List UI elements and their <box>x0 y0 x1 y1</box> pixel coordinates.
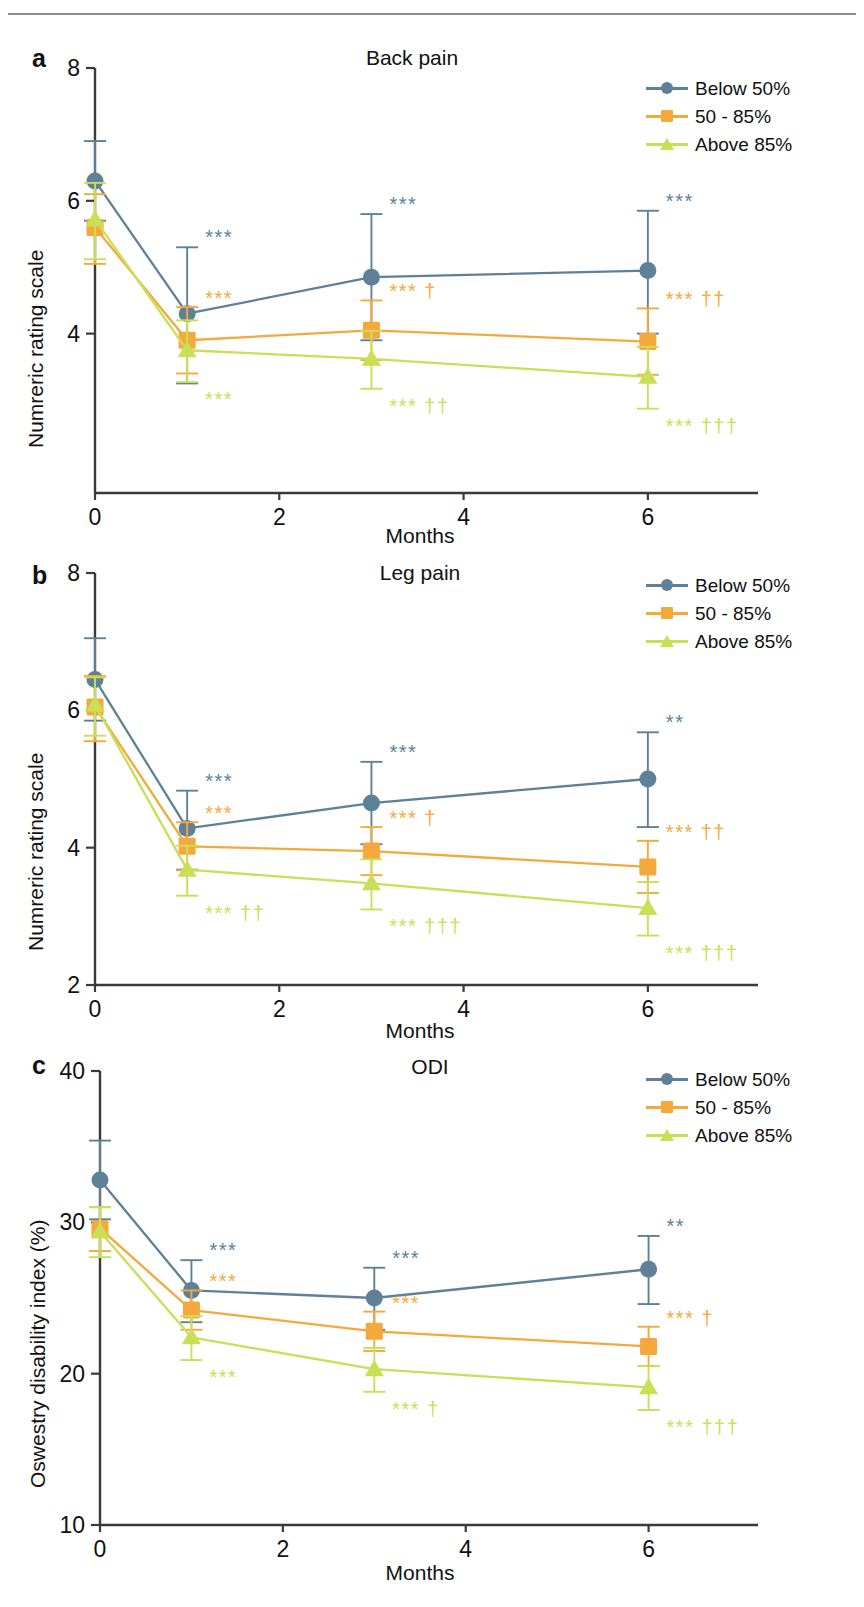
legend-label: Below 50% <box>695 576 790 595</box>
significance-annotation: *** †† <box>389 395 449 417</box>
data-point-circle <box>366 1290 383 1307</box>
legend-label: Above 85% <box>695 1126 792 1145</box>
significance-annotation: *** ††† <box>666 942 739 964</box>
x-tick-label: 2 <box>276 1536 289 1562</box>
panel-c: c ODI Oswestry disability index (%) Mont… <box>0 1043 864 1607</box>
significance-annotation: *** <box>205 287 233 309</box>
significance-annotation: *** † <box>667 1307 715 1329</box>
legend-label: Above 85% <box>695 135 792 154</box>
legend-label: Below 50% <box>695 1070 790 1089</box>
significance-annotation: *** <box>205 802 233 824</box>
x-tick-label: 4 <box>457 996 470 1022</box>
significance-annotation: *** <box>209 1270 237 1292</box>
legend-marker-square-icon <box>646 1098 688 1116</box>
panel-a: a Back pain Numreric rating scale Months… <box>0 38 864 558</box>
data-point-circle <box>640 1261 657 1278</box>
panel-a-legend: Below 50%50 - 85%Above 85% <box>646 74 792 158</box>
data-point-square <box>363 843 380 860</box>
x-tick-label: 0 <box>94 1536 107 1562</box>
x-tick-label: 0 <box>89 504 102 530</box>
legend-item-triangle: Above 85% <box>646 627 792 655</box>
y-tick-label: 6 <box>67 697 80 723</box>
y-tick-label: 10 <box>59 1512 85 1538</box>
x-tick-label: 2 <box>273 996 286 1022</box>
significance-annotation: *** ††† <box>667 1416 740 1438</box>
legend-marker-triangle-icon <box>646 1126 688 1144</box>
significance-annotation: *** †† <box>666 821 726 843</box>
legend-label: Above 85% <box>695 632 792 651</box>
x-tick-label: 6 <box>641 996 654 1022</box>
y-tick-label: 6 <box>67 188 80 214</box>
legend-item-square: 50 - 85% <box>646 599 792 627</box>
y-tick-label: 4 <box>67 835 80 861</box>
series-square: ********* † <box>89 1207 714 1366</box>
legend-label: 50 - 85% <box>695 1098 771 1117</box>
significance-annotation: *** <box>209 1239 237 1261</box>
legend-label: 50 - 85% <box>695 107 771 126</box>
figure-root: a Back pain Numreric rating scale Months… <box>0 0 864 1607</box>
significance-annotation: *** <box>205 388 233 410</box>
data-point-circle <box>363 269 380 286</box>
significance-annotation: *** <box>389 193 417 215</box>
significance-annotation: *** †† <box>666 288 726 310</box>
x-tick-label: 4 <box>459 1536 472 1562</box>
significance-annotation: ** <box>666 711 685 733</box>
significance-annotation: *** ††† <box>666 415 739 437</box>
series-circle: ******** <box>89 1141 685 1330</box>
legend-marker-triangle-icon <box>646 632 688 650</box>
series-square: ****** †*** †† <box>84 676 726 893</box>
header-divider <box>8 13 856 15</box>
data-point-circle <box>639 771 656 788</box>
significance-annotation: *** <box>209 1366 237 1388</box>
legend-marker-square-icon <box>646 107 688 125</box>
legend-item-square: 50 - 85% <box>646 1093 792 1121</box>
significance-annotation: *** <box>392 1247 420 1269</box>
legend-item-triangle: Above 85% <box>646 1121 792 1149</box>
significance-annotation: *** <box>205 770 233 792</box>
series-circle: ********* <box>84 141 694 383</box>
y-tick-label: 30 <box>59 1209 85 1235</box>
significance-annotation: *** † <box>389 807 437 829</box>
legend-marker-triangle-icon <box>646 135 688 153</box>
data-point-triangle <box>86 210 105 227</box>
legend-item-square: 50 - 85% <box>646 102 792 130</box>
legend-marker-circle-icon <box>646 79 688 97</box>
significance-annotation: *** † <box>389 280 437 302</box>
x-tick-label: 6 <box>642 1536 655 1562</box>
panel-b: b Leg pain Numreric rating scale Months … <box>0 553 864 1058</box>
legend-marker-square-icon <box>646 604 688 622</box>
legend-marker-circle-icon <box>646 1070 688 1088</box>
significance-annotation: ** <box>667 1215 686 1237</box>
y-tick-label: 8 <box>67 560 80 586</box>
data-point-circle <box>92 1171 109 1188</box>
series-square: ****** †*** †† <box>84 194 726 375</box>
x-tick-label: 4 <box>457 504 470 530</box>
legend-label: Below 50% <box>695 79 790 98</box>
significance-annotation: *** †† <box>205 902 265 924</box>
series-circle: ******** <box>84 638 684 869</box>
legend-label: 50 - 85% <box>695 604 771 623</box>
x-tick-label: 6 <box>641 504 654 530</box>
y-tick-label: 8 <box>67 55 80 81</box>
y-tick-label: 2 <box>67 972 80 998</box>
significance-annotation: *** <box>666 190 694 212</box>
panel-c-legend: Below 50%50 - 85%Above 85% <box>646 1065 792 1149</box>
significance-annotation: *** <box>392 1292 420 1314</box>
y-tick-label: 20 <box>59 1361 85 1387</box>
legend-item-triangle: Above 85% <box>646 130 792 158</box>
data-point-square <box>639 858 656 875</box>
legend-item-circle: Below 50% <box>646 74 792 102</box>
y-tick-label: 4 <box>67 321 80 347</box>
data-point-circle <box>363 795 380 812</box>
legend-item-circle: Below 50% <box>646 571 792 599</box>
data-point-triangle <box>178 860 197 877</box>
x-tick-label: 0 <box>89 996 102 1022</box>
panel-b-legend: Below 50%50 - 85%Above 85% <box>646 571 792 655</box>
significance-annotation: *** ††† <box>389 915 462 937</box>
data-point-square <box>640 1338 657 1355</box>
data-point-square <box>366 1323 383 1340</box>
significance-annotation: *** <box>205 226 233 248</box>
x-tick-label: 2 <box>273 504 286 530</box>
legend-marker-circle-icon <box>646 576 688 594</box>
legend-item-circle: Below 50% <box>646 1065 792 1093</box>
